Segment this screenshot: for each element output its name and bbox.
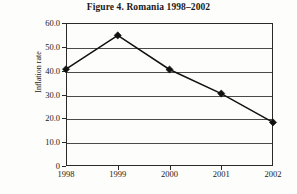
- series-markers-inflation-rate: [62, 32, 276, 126]
- series-layer: [0, 0, 297, 194]
- figure-container: Figure 4. Romania 1998–2002 Inflation ra…: [0, 0, 297, 194]
- series-line-inflation-rate: [66, 35, 273, 122]
- data-point-marker: [218, 90, 225, 97]
- data-point-marker: [269, 119, 276, 126]
